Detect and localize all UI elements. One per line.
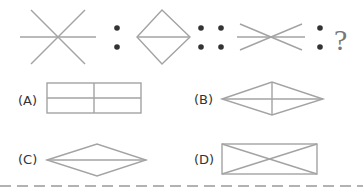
- option-d-label: (D): [194, 152, 214, 167]
- option-d[interactable]: (D): [194, 144, 317, 174]
- figure-2-diamond: [137, 10, 190, 64]
- option-b[interactable]: (B): [194, 82, 323, 115]
- option-c[interactable]: (C): [18, 144, 146, 176]
- option-a[interactable]: (A): [18, 83, 141, 113]
- unknown-question-mark: ?: [334, 23, 347, 56]
- figure-3-flat-asterisk: [237, 24, 305, 50]
- proportion-double-colon: [198, 25, 224, 50]
- option-c-label: (C): [18, 152, 37, 167]
- ratio-colon-1: [114, 25, 120, 50]
- analogy-question-diagram: ? (A) (B) (C) (D): [0, 0, 363, 189]
- figure-1-asterisk: [20, 10, 96, 64]
- ratio-colon-2: [317, 25, 323, 50]
- option-b-label: (B): [194, 92, 213, 107]
- option-a-label: (A): [18, 93, 37, 108]
